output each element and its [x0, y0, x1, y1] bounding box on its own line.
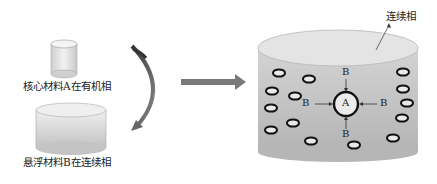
- core-material-label: 核心材料A在有机相: [23, 78, 111, 93]
- core-material-cylinder: [51, 40, 77, 78]
- center-a-label: A: [342, 97, 349, 108]
- suspend-material-cylinder: [36, 103, 106, 155]
- b-label-right: B: [380, 97, 387, 108]
- b-label-top: B: [342, 66, 349, 77]
- suspend-material-label: 悬浮材料B在连续相: [23, 154, 111, 169]
- mixing-curved-arrow-icon: [131, 46, 153, 131]
- continuous-phase-label: 连续相: [386, 8, 416, 23]
- b-label-bottom: B: [342, 128, 349, 139]
- process-arrow-icon: [181, 74, 246, 90]
- b-label-left: B: [302, 97, 309, 108]
